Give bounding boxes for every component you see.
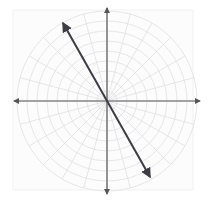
polar-plot-figure: [0, 0, 208, 202]
polar-plot-canvas: [0, 0, 208, 202]
